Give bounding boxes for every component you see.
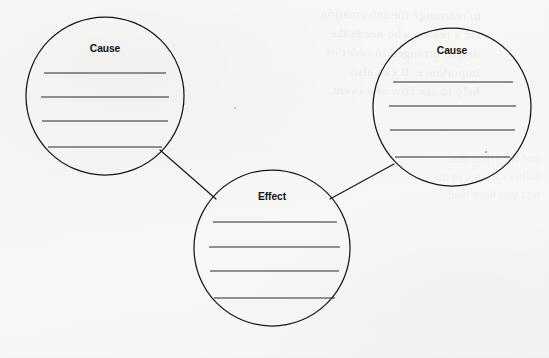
scan-speck <box>234 107 235 108</box>
connector-cause-right-to-effect <box>330 164 394 199</box>
cause-and-effect-diagram: Cause Cause Effect <box>0 0 549 358</box>
effect-title: Effect <box>258 191 287 202</box>
cause-right-title: Cause <box>437 45 468 56</box>
cause-left-title: Cause <box>90 43 121 54</box>
connector-cause-left-to-effect <box>160 150 216 199</box>
effect-write-lines[interactable] <box>209 222 340 298</box>
node-cause-left[interactable]: Cause <box>26 17 184 175</box>
cause-left-write-lines[interactable] <box>41 73 169 147</box>
scan-speck <box>485 151 487 153</box>
worksheet-page: to rearrange the information for a reade… <box>0 0 549 358</box>
cause-right-write-lines[interactable] <box>389 82 516 157</box>
node-cause-right[interactable]: Cause <box>373 28 531 186</box>
node-effect-center[interactable]: Effect <box>194 170 350 326</box>
cause-left-circle <box>26 17 184 175</box>
